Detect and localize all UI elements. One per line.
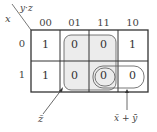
col-header-11: 11: [89, 17, 118, 28]
col-header-00: 00: [31, 17, 60, 28]
xbar-plus-ybar-label: x̄ + ȳ: [114, 113, 137, 123]
col-header-10: 10: [118, 17, 147, 28]
cell-1-10: 0: [118, 69, 147, 82]
z-bar-label: z̄: [38, 113, 43, 124]
col-var-label: y·z: [20, 3, 33, 13]
col-header-01: 01: [60, 17, 89, 28]
row-header-1: 1: [16, 69, 28, 80]
row-var-label: x: [5, 13, 11, 24]
cell-0-11: 0: [89, 38, 118, 51]
arrow-z-bar: [43, 89, 62, 114]
cell-1-00: 1: [31, 69, 60, 82]
cell-1-01: 0: [60, 69, 89, 82]
cell-0-00: 1: [31, 38, 60, 51]
cell-0-01: 0: [60, 38, 89, 51]
cell-1-11: 0: [89, 69, 118, 82]
cell-0-10: 1: [118, 38, 147, 51]
row-header-0: 0: [16, 38, 28, 49]
